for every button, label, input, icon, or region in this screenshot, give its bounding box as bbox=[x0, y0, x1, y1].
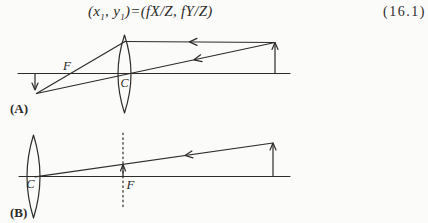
diagram-b: F C (B) bbox=[10, 133, 290, 220]
panel-label-b: (B) bbox=[10, 205, 27, 220]
ray-central-a bbox=[37, 43, 276, 94]
focal-point-label-a: F bbox=[62, 58, 72, 73]
ray-parallel-a bbox=[125, 42, 275, 43]
ray-refracted-a bbox=[37, 42, 126, 94]
lens-center-label-b: C bbox=[27, 177, 36, 191]
focal-point-label-b: F bbox=[126, 177, 136, 192]
ray-chief-b bbox=[35, 143, 273, 177]
figure-page: (x1, y1)=(fX/Z, fY/Z) (16.1) F C bbox=[0, 0, 428, 223]
diagram-a: F C (A) bbox=[10, 35, 290, 116]
lens-ray-diagrams-figure: F C (A) F C (B) bbox=[0, 0, 428, 223]
panel-label-a: (A) bbox=[10, 101, 28, 116]
lens-center-label-a: C bbox=[121, 76, 130, 90]
